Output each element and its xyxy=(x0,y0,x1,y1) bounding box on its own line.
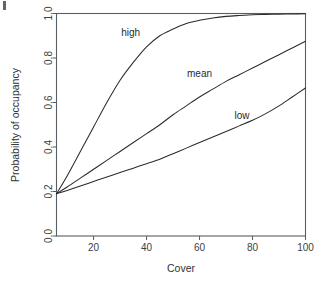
curve-high xyxy=(57,14,306,194)
figure-canvas: 0.00.20.40.60.81.0 20406080100 highmeanl… xyxy=(0,0,318,289)
x-tick-label: 20 xyxy=(88,242,100,253)
curve-mean xyxy=(57,41,306,193)
y-axis: 0.00.20.40.60.81.0 xyxy=(43,6,57,243)
occupancy-probability-line-chart: 0.00.20.40.60.81.0 20406080100 highmeanl… xyxy=(0,0,318,289)
y-axis-title: Probability of occupancy xyxy=(9,67,21,182)
x-tick-label: 40 xyxy=(141,242,153,253)
scan-artifact-mark xyxy=(3,1,6,10)
y-tick-label: 0.8 xyxy=(43,51,54,65)
y-tick-label: 0.2 xyxy=(43,184,54,198)
curve-label-mean: mean xyxy=(187,68,212,79)
curve-label-low: low xyxy=(234,110,250,121)
y-tick-label: 0.6 xyxy=(43,95,54,109)
y-tick-label: 1.0 xyxy=(43,6,54,20)
x-axis-title: Cover xyxy=(167,262,196,274)
curve-label-high: high xyxy=(121,27,140,38)
y-tick-label: 0.0 xyxy=(43,229,54,243)
series-annotations: highmeanlow xyxy=(121,27,250,121)
x-tick-label: 100 xyxy=(297,242,314,253)
x-axis: 20406080100 xyxy=(88,236,314,253)
curve-low xyxy=(57,88,306,194)
x-tick-label: 80 xyxy=(247,242,259,253)
x-tick-label: 60 xyxy=(194,242,206,253)
plot-frame xyxy=(57,14,306,237)
y-tick-label: 0.4 xyxy=(43,140,54,154)
data-curves xyxy=(57,14,306,194)
